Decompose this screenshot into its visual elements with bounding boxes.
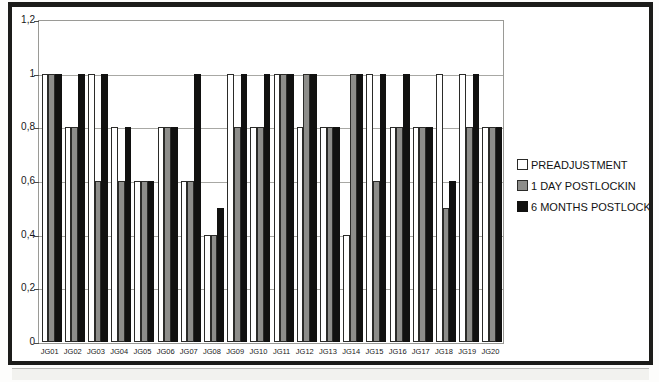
y-axis-tick-label: 0,4 — [21, 230, 35, 240]
bar-jg04-series-0 — [111, 127, 118, 342]
bar-jg05-series-1 — [141, 181, 148, 342]
bar-jg07-series-2 — [194, 74, 201, 342]
bar-jg14-series-1 — [350, 74, 357, 342]
legend-label: PREADJUSTMENT — [531, 159, 628, 171]
y-axis-tick — [34, 182, 39, 183]
y-axis-tick — [34, 236, 39, 237]
bar-jg07-series-0 — [181, 181, 188, 342]
x-axis-label-jg13: JG13 — [316, 346, 339, 357]
x-axis-label-jg01: JG01 — [38, 346, 61, 357]
x-axis-label-jg03: JG03 — [84, 346, 107, 357]
x-axis-label-jg15: JG15 — [363, 346, 386, 357]
x-axis-label-jg04: JG04 — [108, 346, 131, 357]
bar-jg14-series-0 — [343, 235, 350, 342]
bar-group — [156, 22, 179, 342]
bar-chart-figure: 1,210,80,60,40,20 JG01JG02JG03JG04JG05JG… — [12, 7, 649, 361]
page-frame-right — [649, 2, 653, 365]
bar-jg18-series-1 — [443, 208, 450, 342]
legend-swatch-1-day-postlockin — [517, 180, 528, 191]
bar-jg05-series-2 — [148, 181, 155, 342]
bar-jg20-series-1 — [489, 127, 496, 342]
x-axis-label-jg09: JG09 — [224, 346, 247, 357]
bar-group — [295, 22, 318, 342]
x-axis-label-jg10: JG10 — [247, 346, 270, 357]
bar-jg13-series-0 — [320, 127, 327, 342]
legend-row: 6 MONTHS POSTLOCKIN — [517, 196, 649, 217]
bar-jg17-series-1 — [419, 127, 426, 342]
bar-jg08-series-2 — [217, 208, 224, 342]
bar-jg05-series-0 — [134, 181, 141, 342]
bar-jg09-series-1 — [234, 127, 241, 342]
bar-group — [458, 22, 481, 342]
bar-jg06-series-0 — [158, 127, 165, 342]
bar-jg01-series-2 — [55, 74, 62, 342]
bar-group — [388, 22, 411, 342]
legend-swatch-preadjustment — [517, 159, 528, 170]
y-axis-labels: 1,210,80,60,40,20 — [12, 20, 35, 344]
bar-jg18-series-2 — [449, 181, 456, 342]
legend-label: 6 MONTHS POSTLOCKIN — [531, 201, 649, 213]
plot-area — [38, 20, 504, 344]
y-axis-tick — [34, 343, 39, 344]
bar-jg04-series-1 — [118, 181, 125, 342]
bar-jg02-series-2 — [78, 74, 85, 342]
legend-row: PREADJUSTMENT — [517, 154, 649, 175]
bar-jg15-series-0 — [366, 74, 373, 342]
bar-jg13-series-2 — [333, 127, 340, 342]
x-axis-label-jg06: JG06 — [154, 346, 177, 357]
bar-jg12-series-1 — [303, 74, 310, 342]
bar-jg02-series-0 — [65, 127, 72, 342]
bar-jg12-series-2 — [310, 74, 317, 342]
x-axis-label-jg17: JG17 — [409, 346, 432, 357]
bar-group — [86, 22, 109, 342]
bar-group — [318, 22, 341, 342]
bar-group — [110, 22, 133, 342]
bar-jg07-series-1 — [187, 181, 194, 342]
bar-jg11-series-0 — [274, 74, 281, 342]
bar-jg20-series-0 — [482, 127, 489, 342]
bar-group — [202, 22, 225, 342]
bar-jg15-series-1 — [373, 181, 380, 342]
x-axis-label-jg05: JG05 — [131, 346, 154, 357]
x-axis-label-jg19: JG19 — [456, 346, 479, 357]
bar-group — [249, 22, 272, 342]
bar-group — [434, 22, 457, 342]
bar-jg03-series-1 — [95, 181, 102, 342]
y-axis-tick — [34, 289, 39, 290]
bar-jg16-series-0 — [390, 127, 397, 342]
chart-legend: PREADJUSTMENT1 DAY POSTLOCKIN6 MONTHS PO… — [517, 154, 649, 220]
bar-jg10-series-0 — [250, 127, 257, 342]
bar-group — [40, 22, 63, 342]
x-axis-label-jg12: JG12 — [293, 346, 316, 357]
y-axis-tick-label: 1,2 — [21, 15, 35, 25]
bar-group — [133, 22, 156, 342]
x-axis-label-jg18: JG18 — [432, 346, 455, 357]
bar-jg06-series-2 — [171, 127, 178, 342]
x-axis-label-jg08: JG08 — [200, 346, 223, 357]
bar-jg13-series-1 — [327, 127, 334, 342]
x-axis-label-jg11: JG11 — [270, 346, 293, 357]
bar-jg01-series-0 — [42, 74, 49, 342]
bar-group — [481, 22, 504, 342]
x-axis-label-jg07: JG07 — [177, 346, 200, 357]
bar-jg10-series-1 — [257, 127, 264, 342]
y-axis-tick-label: 0,6 — [21, 176, 35, 186]
x-axis-labels: JG01JG02JG03JG04JG05JG06JG07JG08JG09JG10… — [38, 346, 504, 360]
bar-jg17-series-0 — [413, 127, 420, 342]
bar-jg12-series-0 — [297, 127, 304, 342]
x-axis-label-jg14: JG14 — [340, 346, 363, 357]
y-axis-tick-label: 0 — [29, 337, 35, 347]
legend-row: 1 DAY POSTLOCKIN — [517, 175, 649, 196]
bar-jg19-series-1 — [466, 127, 473, 342]
bar-jg09-series-2 — [241, 74, 248, 342]
bar-jg08-series-0 — [204, 235, 211, 342]
bar-group — [411, 22, 434, 342]
bar-jg04-series-2 — [125, 127, 132, 342]
y-axis-tick-label: 0,8 — [21, 122, 35, 132]
y-axis-tick — [34, 75, 39, 76]
bar-group — [272, 22, 295, 342]
bar-jg03-series-0 — [88, 74, 95, 342]
bar-jg19-series-0 — [459, 74, 466, 342]
bar-jg03-series-2 — [101, 74, 108, 342]
y-axis-tick — [34, 21, 39, 22]
